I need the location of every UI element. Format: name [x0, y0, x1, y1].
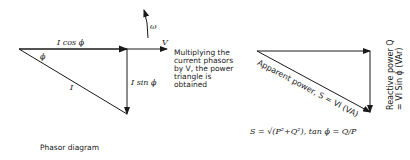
explanation-note: Multiplying the current phasors by V, th…	[174, 49, 254, 89]
current-phasor	[19, 49, 127, 114]
current-label: I	[70, 83, 73, 92]
voltage-label: V	[162, 38, 168, 47]
angle-label: ϕ	[40, 52, 45, 61]
reactive-power-label: Reactive power Q = VI Sin ϕ (VAr)	[386, 39, 404, 110]
rotation-arrow	[144, 10, 148, 38]
quadrature-label: I sin ϕ	[131, 78, 157, 87]
reactive-line-2: = VI Sin ϕ (VAr)	[395, 39, 404, 110]
reactive-line-1: Reactive power Q	[386, 39, 395, 110]
power-formula: S = √(P²+Q²), tan ϕ = Q/P	[250, 127, 356, 136]
in-phase-label: I cos ϕ	[57, 38, 84, 47]
apparent-power-side	[257, 51, 370, 112]
rotation-label: ω	[150, 22, 157, 31]
phasor-caption: Phasor diagram	[40, 143, 99, 152]
